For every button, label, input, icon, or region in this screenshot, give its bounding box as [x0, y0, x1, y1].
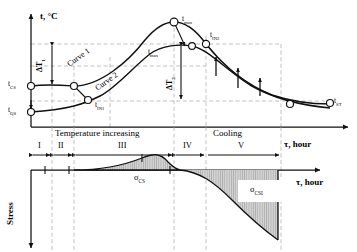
label-delta-t2: ΔT2	[166, 77, 177, 90]
region-label-i: I	[38, 141, 41, 150]
region-label-iv: IV	[183, 141, 192, 150]
bottom-x-axis-label: τ, hour	[296, 178, 323, 187]
top-x-axis-label: τ, hour	[284, 140, 311, 149]
label-t-in1: tIN1	[95, 101, 104, 111]
label-delta-t1: ΔT1	[36, 59, 47, 72]
label-t-cs: tCS	[8, 80, 16, 90]
region-label-iii: III	[118, 141, 127, 150]
region-label-ii: II	[58, 141, 64, 150]
label-sigma-cs: σCS	[134, 173, 145, 184]
sigma-cs-area	[74, 155, 180, 170]
label-heating-phase: Temperature increasing	[55, 129, 140, 138]
label-t-st: tST	[334, 97, 342, 107]
label-t-qs: tQS	[8, 106, 16, 116]
label-t-max-1: tmax	[182, 15, 192, 25]
label-sigma-csi: σCSI	[250, 185, 263, 196]
region-label-v: V	[238, 141, 244, 150]
sigma-csi-label-bg	[238, 180, 290, 202]
bottom-y-axis-label: Stress	[6, 202, 15, 225]
diagram-canvas	[0, 0, 357, 252]
label-cooling-phase: Cooling	[213, 129, 242, 138]
figure-root: t, °C tCS tQS tIN1 tIN2 tmax tmax tST ΔT…	[0, 0, 357, 252]
label-t-in2: tIN2	[210, 31, 219, 41]
top-y-axis-label: t, °C	[40, 12, 58, 21]
label-t-max-2: tmax	[148, 48, 158, 58]
